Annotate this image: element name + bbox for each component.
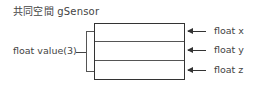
divider-2	[95, 60, 184, 61]
field-label-x: float x	[214, 25, 244, 36]
array-connector-line	[76, 52, 86, 53]
array-label: float value(3)	[13, 45, 77, 56]
memory-block	[94, 23, 185, 80]
array-bracket	[86, 31, 94, 72]
arrow-left-icon	[188, 70, 206, 71]
divider-1	[95, 41, 184, 42]
arrow-left-icon	[188, 50, 206, 51]
arrow-left-icon	[188, 31, 206, 32]
field-label-z: float z	[214, 64, 243, 75]
field-label-y: float y	[214, 44, 244, 55]
diagram-title: 共同空間 gSensor	[13, 3, 99, 18]
